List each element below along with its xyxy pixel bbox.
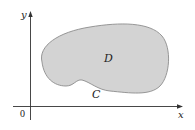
y-axis-arrow-icon — [28, 11, 32, 17]
origin-label: 0 — [20, 109, 25, 119]
x-axis-label: x — [178, 110, 184, 120]
diagram-svg — [0, 0, 195, 130]
curve-label-c: C — [92, 89, 100, 100]
y-axis-label: y — [21, 10, 27, 20]
diagram-canvas: y x 0 D C — [0, 0, 195, 130]
region-label-d: D — [104, 53, 113, 64]
